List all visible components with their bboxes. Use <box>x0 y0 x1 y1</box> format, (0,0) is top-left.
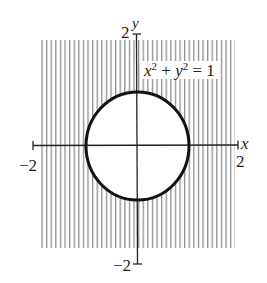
x-tick-label-max: 2 <box>236 153 245 170</box>
x-axis <box>33 145 238 146</box>
eq-x: x <box>144 61 152 80</box>
x-axis-label: x <box>241 135 249 152</box>
eq-plus: + <box>161 61 171 80</box>
equation-label: x2 + y2 = 1 <box>141 61 218 79</box>
x-tick-label-min: −2 <box>19 157 37 174</box>
eq-x-exp: 2 <box>152 60 158 72</box>
y-tick-label-max: 2 <box>121 24 130 41</box>
y-tick-label-min: −2 <box>113 257 131 274</box>
eq-y: y <box>175 61 183 80</box>
y-axis-label: y <box>132 16 139 31</box>
eq-rhs: = 1 <box>192 61 214 80</box>
region-diagram <box>0 0 267 283</box>
eq-y-exp: 2 <box>183 60 189 72</box>
